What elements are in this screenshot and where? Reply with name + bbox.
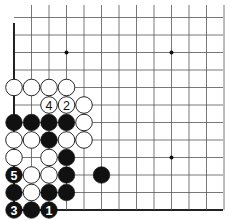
white-stone[interactable] — [41, 79, 58, 96]
move-number-label: 2 — [63, 99, 70, 113]
white-stone[interactable] — [6, 79, 23, 96]
black-stone-icon — [41, 132, 58, 149]
white-stone-icon — [6, 149, 23, 166]
black-stone[interactable] — [23, 114, 40, 131]
white-stone[interactable] — [58, 132, 75, 149]
black-stone[interactable] — [58, 114, 75, 131]
white-stone-icon — [76, 114, 93, 131]
black-stone[interactable] — [58, 184, 75, 201]
black-stone-icon — [23, 114, 40, 131]
go-board[interactable]: 31542 — [0, 0, 233, 220]
white-stone[interactable] — [41, 167, 58, 184]
move-number-label: 4 — [46, 99, 53, 113]
black-stone-icon — [58, 149, 75, 166]
white-stone-icon — [41, 167, 58, 184]
move-number-label: 5 — [11, 169, 18, 183]
black-stone[interactable] — [58, 149, 75, 166]
move-number-label: 1 — [46, 204, 53, 218]
black-stone-icon — [93, 167, 110, 184]
white-stone[interactable] — [41, 149, 58, 166]
black-stone[interactable]: 5 — [6, 167, 23, 184]
black-stone[interactable] — [41, 184, 58, 201]
white-stone-icon — [6, 79, 23, 96]
white-stone[interactable] — [6, 149, 23, 166]
white-stone[interactable] — [6, 132, 23, 149]
white-stone[interactable] — [23, 184, 40, 201]
white-stone[interactable] — [76, 97, 93, 114]
white-stone[interactable] — [23, 132, 40, 149]
star-point-icon — [65, 51, 69, 55]
black-stone[interactable] — [58, 167, 75, 184]
white-stone[interactable] — [76, 132, 93, 149]
white-stone[interactable]: 2 — [58, 97, 75, 114]
black-stone-icon — [41, 184, 58, 201]
black-stone-icon — [6, 114, 23, 131]
black-stone[interactable] — [93, 167, 110, 184]
black-stone-icon — [58, 184, 75, 201]
white-stone-icon — [76, 97, 93, 114]
star-point-icon — [170, 156, 174, 160]
white-stone[interactable] — [58, 79, 75, 96]
black-stone[interactable]: 3 — [6, 202, 23, 219]
black-stone-icon — [58, 167, 75, 184]
black-stone[interactable]: 1 — [41, 202, 58, 219]
white-stone-icon — [6, 132, 23, 149]
black-stone[interactable] — [6, 114, 23, 131]
white-stone-icon — [76, 132, 93, 149]
black-stone[interactable] — [41, 132, 58, 149]
white-stone[interactable] — [76, 114, 93, 131]
white-stone-icon — [41, 79, 58, 96]
black-stone-icon — [6, 184, 23, 201]
black-stone-icon — [23, 202, 40, 219]
black-stone[interactable] — [41, 114, 58, 131]
white-stone[interactable] — [23, 79, 40, 96]
white-stone-icon — [23, 184, 40, 201]
white-stone-icon — [58, 132, 75, 149]
star-point-icon — [170, 51, 174, 55]
black-stone-icon — [58, 114, 75, 131]
white-stone-icon — [41, 149, 58, 166]
white-stone-icon — [23, 132, 40, 149]
white-stone-icon — [23, 79, 40, 96]
black-stone[interactable] — [23, 202, 40, 219]
black-stone-icon — [41, 114, 58, 131]
black-stone[interactable] — [6, 184, 23, 201]
white-stone-icon — [23, 167, 40, 184]
white-stone[interactable] — [23, 167, 40, 184]
stones-layer: 31542 — [6, 79, 110, 218]
white-stone-icon — [58, 79, 75, 96]
move-number-label: 3 — [11, 204, 18, 218]
white-stone[interactable]: 4 — [41, 97, 58, 114]
